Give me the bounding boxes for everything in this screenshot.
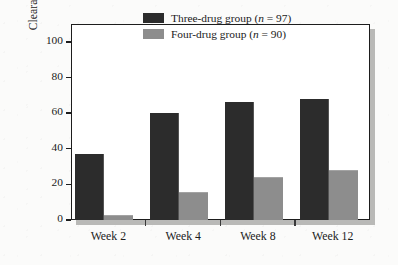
bar-group-bars <box>221 24 296 220</box>
y-axis-tick-label: 20 <box>52 176 63 188</box>
bar <box>254 177 283 220</box>
y-axis-tick-label: 100 <box>46 34 63 46</box>
legend-swatch-icon-four-drug-group <box>143 29 164 39</box>
y-axis-tick-label: 40 <box>52 141 63 153</box>
bar-group-bars <box>146 24 221 220</box>
bar-groups: Week 2Week 4Week 8Week 12 <box>71 24 370 220</box>
bar <box>104 215 133 220</box>
bar-group: Week 12 <box>295 24 370 220</box>
bar <box>329 170 358 220</box>
bar-group: Week 8 <box>221 24 296 220</box>
x-axis-tick-label: Week 12 <box>312 229 353 244</box>
x-axis-tick-label: Week 4 <box>165 229 200 244</box>
x-axis-tick-label: Week 2 <box>91 229 126 244</box>
y-axis-tick-label: 0 <box>57 212 63 224</box>
bar <box>225 102 254 220</box>
bar-group: Week 2 <box>71 24 146 220</box>
plot-area: Clearance of bacteremia, % 020406080100 … <box>71 24 370 220</box>
bar-group-bars <box>295 24 370 220</box>
x-axis-tick-mark <box>145 220 146 226</box>
legend-swatch-icon-three-drug-group <box>143 13 164 23</box>
x-axis-tick-label: Week 8 <box>240 229 275 244</box>
legend-item-three-drug-group: Three-drug group (n = 97) <box>143 11 291 25</box>
bar-group-bars <box>71 24 146 220</box>
y-axis-label: Clearance of bacteremia, % <box>27 0 40 60</box>
legend-item-four-drug-group: Four-drug group (n = 90) <box>143 27 291 41</box>
figure-screenshot: Clearance of bacteremia, % 020406080100 … <box>0 0 398 265</box>
x-axis-tick-mark <box>294 220 295 226</box>
bar <box>179 192 208 221</box>
bar-group: Week 4 <box>146 24 221 220</box>
legend-label-three-drug-group: Three-drug group (n = 97) <box>171 12 291 24</box>
bar <box>75 154 104 220</box>
bar <box>150 113 179 220</box>
legend-label-four-drug-group: Four-drug group (n = 90) <box>171 28 286 40</box>
y-axis-tick-label: 60 <box>52 105 63 117</box>
y-axis-tick-label: 80 <box>52 70 63 82</box>
x-axis-tick-mark <box>220 220 221 226</box>
chart-legend: Three-drug group (n = 97) Four-drug grou… <box>143 11 291 43</box>
bar <box>300 99 329 220</box>
